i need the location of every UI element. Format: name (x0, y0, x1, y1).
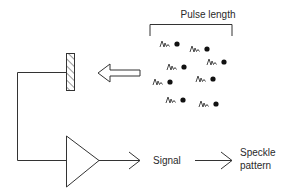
scatterer-group (153, 41, 227, 107)
particle-dot-icon (221, 59, 226, 64)
squiggle-wave-icon (166, 97, 176, 103)
squiggle-wave-icon (199, 101, 209, 107)
squiggle-wave-icon (190, 46, 200, 52)
particle-dot-icon (167, 79, 172, 84)
squiggle-dot-icon (207, 59, 227, 65)
feedback-line (18, 73, 67, 161)
squiggle-dot-icon (166, 97, 186, 103)
squiggle-wave-icon (160, 41, 170, 47)
hatched-mirror-icon (67, 54, 75, 91)
signal-label: Signal (153, 155, 181, 166)
particle-dot-icon (210, 76, 215, 81)
particle-dot-icon (181, 64, 186, 69)
hollow-left-arrow-icon (98, 64, 140, 82)
squiggle-dot-icon (199, 101, 219, 107)
speckle-pattern-label-line2: pattern (240, 160, 271, 171)
pulse-length-bracket (150, 25, 232, 37)
squiggle-dot-icon (190, 46, 210, 52)
particle-dot-icon (174, 41, 179, 46)
particle-dot-icon (204, 46, 209, 51)
squiggle-wave-icon (167, 64, 177, 70)
squiggle-dot-icon (160, 41, 180, 47)
particle-dot-icon (180, 97, 185, 102)
signal-to-speckle-arrow (195, 152, 232, 169)
amplifier-triangle-icon (67, 136, 100, 187)
squiggle-wave-icon (153, 79, 163, 85)
pulse-length-label: Pulse length (180, 9, 235, 20)
squiggle-wave-icon (196, 76, 206, 82)
speckle-diagram: Pulse length Signal Speckle pattern (0, 0, 288, 196)
squiggle-dot-icon (153, 79, 173, 85)
squiggle-dot-icon (167, 64, 187, 70)
squiggle-wave-icon (207, 59, 217, 65)
particle-dot-icon (213, 101, 218, 106)
speckle-pattern-label-line1: Speckle (240, 147, 276, 158)
amplifier-output-arrow (99, 152, 140, 169)
squiggle-dot-icon (196, 76, 216, 82)
